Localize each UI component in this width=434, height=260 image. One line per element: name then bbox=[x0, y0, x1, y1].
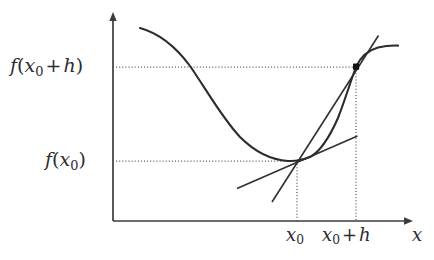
glyph-f: f bbox=[45, 148, 52, 170]
glyph-close-paren: ) bbox=[78, 148, 85, 170]
figure-container: f(x0+h) f(x0) x0 x0+h x bbox=[0, 0, 434, 260]
glyph-x: x bbox=[412, 224, 422, 245]
y-tick-label-f-x0-plus-h: f(x0+h) bbox=[10, 56, 83, 79]
glyph-plus: + bbox=[340, 224, 359, 245]
secant-line bbox=[272, 36, 379, 203]
derivative-diagram bbox=[0, 0, 434, 260]
x-axis-label: x bbox=[412, 226, 422, 244]
glyph-x: x bbox=[322, 224, 332, 245]
glyph-h: h bbox=[63, 54, 75, 76]
x-tick-label-x0: x0 bbox=[286, 226, 304, 247]
x-tick-label-x0-plus-h: x0+h bbox=[322, 226, 371, 247]
y-tick-label-f-x0: f(x0) bbox=[45, 150, 86, 173]
glyph-plus: + bbox=[43, 54, 63, 76]
glyph-subscript-zero: 0 bbox=[296, 233, 304, 247]
glyph-subscript-zero: 0 bbox=[332, 233, 340, 247]
tangent-line bbox=[237, 136, 358, 189]
glyph-x: x bbox=[24, 54, 35, 76]
point-marker-x0-plus-h bbox=[353, 64, 359, 70]
function-curve bbox=[140, 28, 398, 161]
glyph-x: x bbox=[286, 224, 296, 245]
glyph-f: f bbox=[10, 54, 17, 76]
y-axis-arrowhead bbox=[109, 12, 116, 21]
glyph-x: x bbox=[59, 148, 70, 170]
glyph-h: h bbox=[359, 224, 371, 245]
glyph-close-paren: ) bbox=[76, 54, 83, 76]
